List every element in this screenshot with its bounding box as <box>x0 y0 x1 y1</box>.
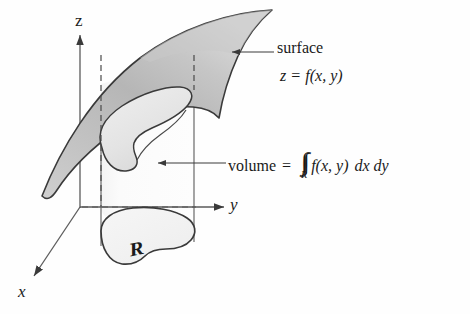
volume-fn-args: (x, y) <box>316 158 349 174</box>
region-R-outline <box>101 207 195 264</box>
x-axis <box>34 207 80 276</box>
integral-subscript-R: R <box>301 170 307 180</box>
volume-equation-label: volume=∫∫Rf(x, y)dx dy <box>228 152 389 179</box>
axis-label-z: z <box>75 12 83 29</box>
surface-annotation-label: surface <box>277 40 323 56</box>
surface-eq-equals: = <box>291 67 300 84</box>
surface-eq-args: (x, y) <box>310 67 343 84</box>
axis-label-x: x <box>18 283 26 300</box>
axis-label-y: y <box>230 196 238 213</box>
region-R-base <box>101 207 195 264</box>
volume-differentials: dx dy <box>354 158 388 174</box>
double-integral-icon: ∫∫R <box>301 153 310 180</box>
surface-equation-label: z=f(x, y) <box>280 68 343 84</box>
surface-eq-z: z <box>280 67 286 84</box>
volume-equals: = <box>282 158 291 174</box>
figure-container: z y x surface z=f(x, y) volume=∫∫Rf(x, y… <box>0 0 470 314</box>
volume-word: volume <box>228 158 276 174</box>
